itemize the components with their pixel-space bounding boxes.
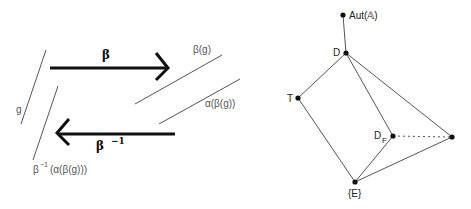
label-beta-inv: β: [96, 139, 104, 153]
label-result-body: (α(β(g))): [50, 164, 87, 175]
right-diagram: [298, 15, 452, 182]
edge-d-df: [346, 53, 393, 136]
node-t: [295, 95, 300, 100]
right-diagram-nodes: [295, 12, 454, 184]
edge-d-t: [298, 53, 346, 98]
node-r: [449, 134, 454, 139]
left-diagram: g β β(g) α(β(g)) β −1 β −1 (α(β(g))): [16, 44, 240, 175]
line-result: [33, 86, 58, 160]
label-beta-g: β(g): [193, 44, 211, 55]
label-e: {E}: [348, 188, 362, 199]
edge-df-e: [355, 136, 393, 182]
node-d: [343, 50, 348, 55]
label-result-exp: −1: [40, 161, 48, 168]
line-g: [21, 50, 46, 124]
label-g: g: [16, 104, 22, 115]
edge-d-r: [346, 53, 452, 137]
label-d: D: [333, 47, 340, 58]
edge-aut-d: [343, 15, 346, 53]
arrow-left-head-icon: [57, 119, 69, 145]
label-df-sub: F: [382, 136, 387, 145]
edge-df-r-dotted: [393, 136, 452, 137]
label-alpha-beta-g: α(β(g)): [205, 98, 235, 109]
edge-r-e: [355, 137, 452, 182]
edge-t-e: [298, 98, 355, 182]
label-result-prefix: β: [33, 164, 39, 175]
label-df: D: [374, 130, 381, 141]
label-aut: Aut(𝔸): [349, 10, 378, 21]
diagram-canvas: g β β(g) α(β(g)) β −1 β −1 (α(β(g))): [0, 0, 471, 209]
label-beta-inv-exp: −1: [111, 136, 125, 146]
node-aut: [340, 12, 345, 17]
node-e: [352, 179, 357, 184]
node-df: [390, 133, 395, 138]
label-t: T: [287, 93, 293, 104]
label-beta: β: [102, 48, 110, 62]
